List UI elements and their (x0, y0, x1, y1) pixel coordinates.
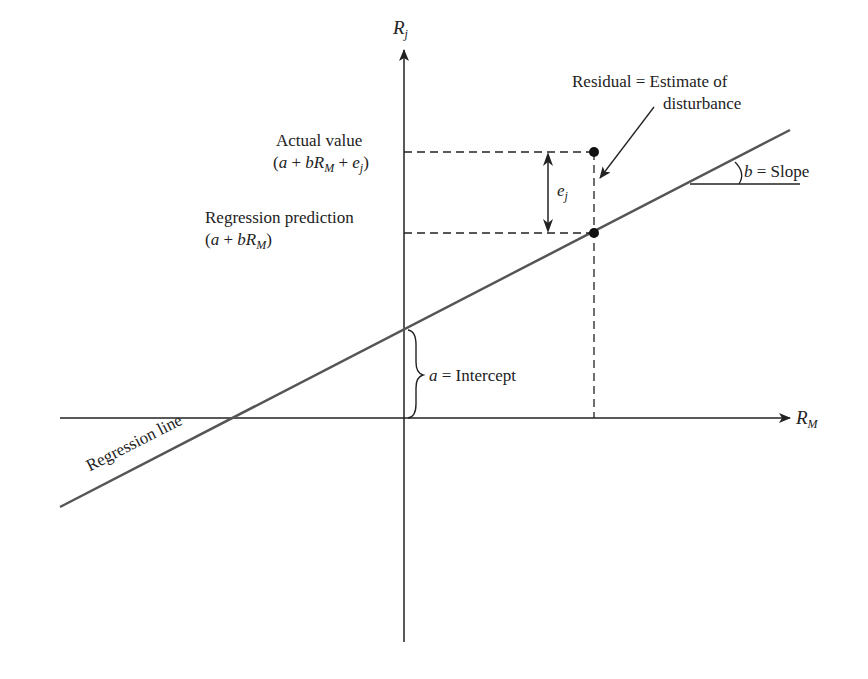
intercept-label: a = Intercept (429, 366, 516, 386)
prediction-title: Regression prediction (205, 208, 354, 228)
actual-value-point (589, 147, 599, 157)
actual-value-formula: (a + bRM + ej) (273, 153, 369, 174)
prediction-point (589, 228, 599, 238)
residual-symbol: ej (557, 181, 568, 202)
slope-label: b = Slope (744, 162, 809, 182)
slope-arc (735, 162, 742, 184)
regression-line (60, 130, 790, 507)
y-axis-label: Rj (393, 18, 408, 40)
residual-pointer-arrow (600, 107, 654, 178)
actual-value-title: Actual value (276, 131, 362, 151)
residual-label-line2: disturbance (663, 94, 741, 114)
intercept-brace (408, 330, 423, 418)
x-axis-label: RM (796, 408, 818, 430)
residual-label-line1: Residual = Estimate of (572, 72, 727, 92)
prediction-formula: (a + bRM) (205, 230, 272, 251)
